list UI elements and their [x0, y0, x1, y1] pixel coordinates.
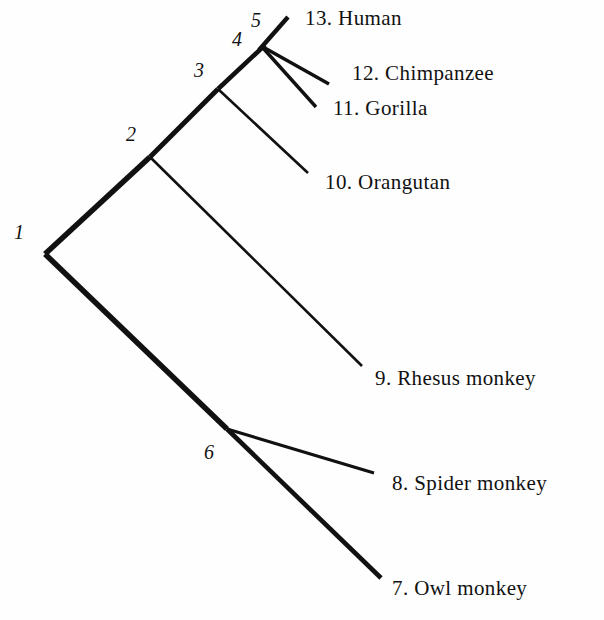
node-label-3: 3 [194, 60, 204, 80]
tree-branches-canvas [0, 0, 604, 620]
branch-root-to-node2 [45, 157, 150, 254]
branch-node3-to-orangutan [218, 89, 308, 173]
branch-root-to-node6 [45, 254, 227, 429]
node-label-2: 2 [126, 124, 136, 144]
taxon-label-human: 13. Human [305, 8, 402, 29]
branch-group [45, 17, 381, 578]
branch-node5-to-gorilla [263, 48, 316, 107]
taxon-label-owl-monkey: 7. Owl monkey [392, 578, 527, 599]
node-label-1: 1 [14, 222, 24, 242]
taxon-label-gorilla: 11. Gorilla [333, 98, 428, 119]
branch-node5-to-chimpanzee [263, 47, 329, 84]
node-label-6: 6 [204, 442, 214, 462]
branch-node3-to-node5 [218, 45, 265, 89]
phylogenetic-tree-figure: 123456 13. Human12. Chimpanzee11. Gorill… [0, 0, 604, 620]
node-label-4: 4 [232, 29, 242, 49]
branch-node2-to-node3 [150, 89, 218, 157]
taxon-label-orangutan: 10. Orangutan [325, 172, 450, 193]
taxon-label-chimpanzee: 12. Chimpanzee [352, 63, 494, 84]
taxon-label-spider-monkey: 8. Spider monkey [392, 473, 547, 494]
node-label-5: 5 [251, 10, 261, 30]
taxon-label-rhesus-monkey: 9. Rhesus monkey [375, 368, 536, 389]
branch-node5-to-human [259, 17, 288, 50]
